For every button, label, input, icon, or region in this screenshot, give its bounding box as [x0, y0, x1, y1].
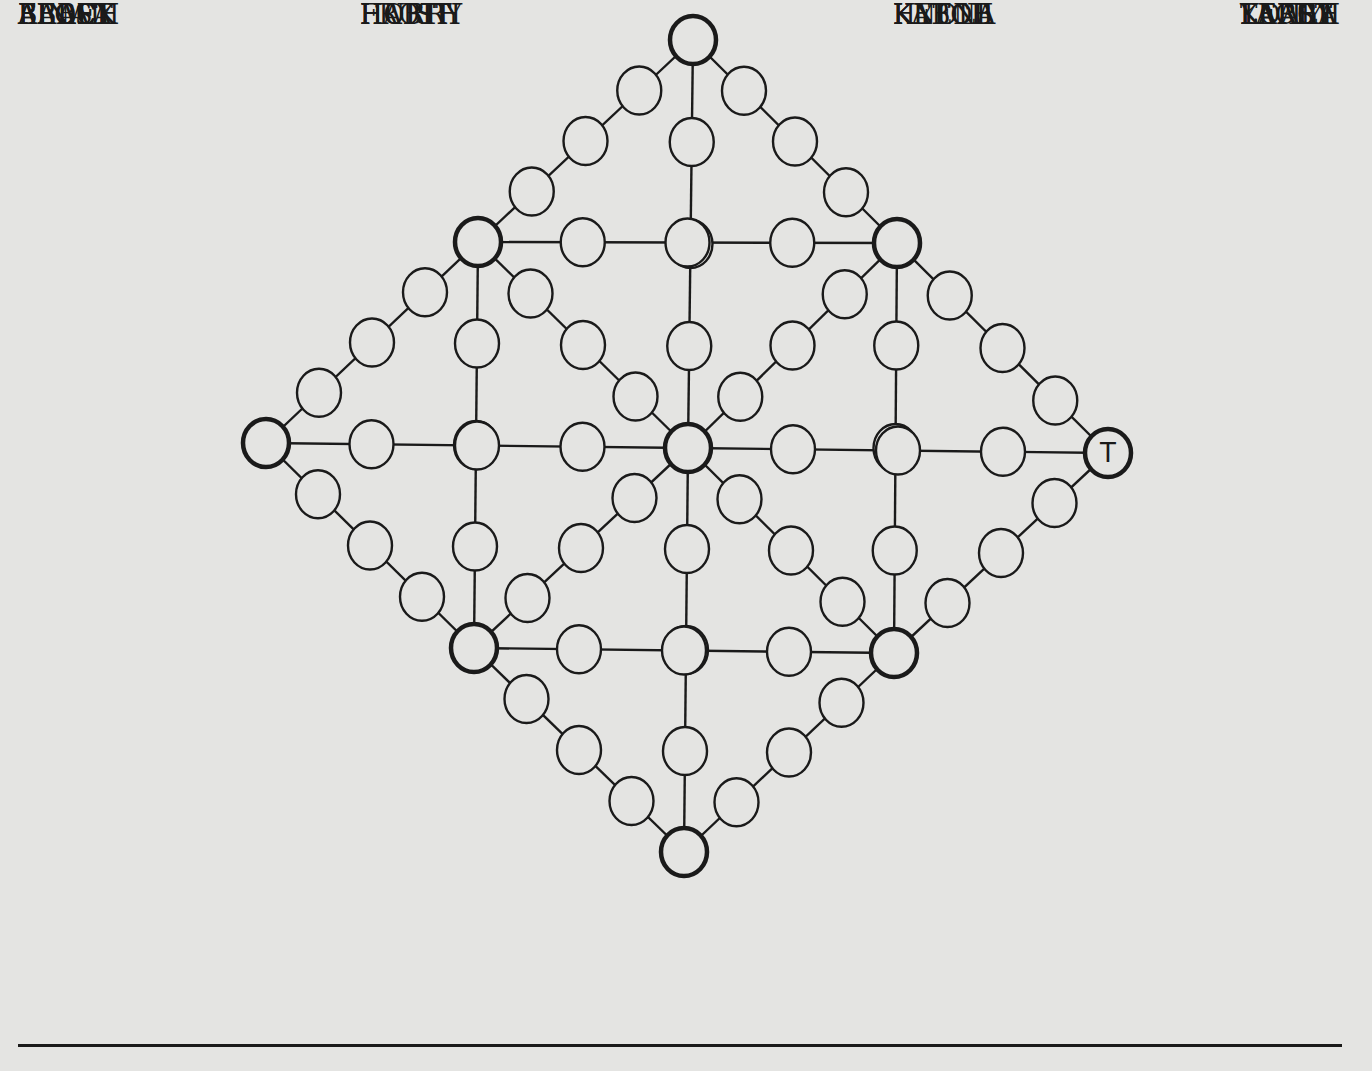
letter-cell[interactable]	[559, 524, 603, 572]
hub-letter-cell-t[interactable]	[670, 16, 716, 64]
given-letter: T	[1099, 438, 1116, 468]
letter-cell[interactable]	[453, 523, 497, 571]
letter-cell[interactable]	[455, 320, 499, 368]
letter-cell[interactable]	[1033, 377, 1077, 425]
letter-cell[interactable]	[926, 579, 970, 627]
letter-cell[interactable]	[770, 219, 814, 267]
letter-cell[interactable]	[350, 319, 394, 367]
letter-cell[interactable]	[610, 777, 654, 825]
letter-cell[interactable]	[773, 118, 817, 166]
letter-cell[interactable]	[297, 369, 341, 417]
letter-cell[interactable]	[767, 628, 811, 676]
letter-cell[interactable]	[670, 118, 714, 166]
hub-letter-cell-ur[interactable]	[874, 219, 920, 267]
hub-letter-cell-c[interactable]	[665, 424, 711, 472]
letter-cell[interactable]	[718, 373, 762, 421]
letter-cell[interactable]	[510, 168, 554, 216]
letter-cell[interactable]	[506, 574, 550, 622]
letter-cell[interactable]	[820, 679, 864, 727]
puzzle-board: T	[0, 0, 1372, 1071]
letter-cell[interactable]	[505, 675, 549, 723]
letter-cell[interactable]	[613, 474, 657, 522]
letter-cell[interactable]	[771, 425, 815, 473]
hub-letter-cell-lr[interactable]	[871, 629, 917, 677]
letter-cell[interactable]	[769, 527, 813, 575]
word-list-item: FLOCK	[18, 0, 116, 31]
letter-cell[interactable]	[665, 525, 709, 573]
letter-cell[interactable]	[455, 422, 499, 470]
letter-cell[interactable]	[400, 573, 444, 621]
letter-cell[interactable]	[722, 67, 766, 115]
letter-cell[interactable]	[771, 322, 815, 370]
letter-cell[interactable]	[666, 219, 710, 267]
letter-cell[interactable]	[617, 67, 661, 115]
letter-cell[interactable]	[663, 727, 707, 775]
letter-cell[interactable]	[874, 322, 918, 370]
letter-cell[interactable]	[564, 117, 608, 165]
letter-cell[interactable]	[350, 420, 394, 468]
bottom-divider	[18, 1044, 1342, 1047]
letter-cell[interactable]	[296, 470, 340, 518]
letter-cell[interactable]	[821, 578, 865, 626]
letter-cell[interactable]	[823, 270, 867, 318]
letter-cell[interactable]	[509, 270, 553, 318]
letter-cell[interactable]	[715, 778, 759, 826]
letter-cell[interactable]	[403, 268, 447, 316]
letter-cell[interactable]	[824, 168, 868, 216]
letter-cell[interactable]	[981, 324, 1025, 372]
word-list-item: HURRY	[360, 0, 463, 31]
hub-letter-cell-b[interactable]	[661, 828, 707, 876]
hub-letter-cell-l[interactable]	[243, 419, 289, 467]
letter-cell[interactable]	[718, 475, 762, 523]
letter-cell[interactable]	[561, 321, 605, 369]
letter-cell[interactable]	[873, 527, 917, 575]
letter-cell[interactable]	[981, 428, 1025, 476]
letter-cell[interactable]	[614, 373, 658, 421]
letter-cells: T	[243, 16, 1131, 876]
letter-cell[interactable]	[928, 272, 972, 320]
letter-cell[interactable]	[767, 729, 811, 777]
word-list-item: YACHT	[1240, 0, 1336, 31]
letter-cell[interactable]	[662, 627, 706, 675]
letter-cell[interactable]	[979, 529, 1023, 577]
letter-cell[interactable]	[561, 423, 605, 471]
hub-letter-cell-ll[interactable]	[451, 624, 497, 672]
letter-cell[interactable]	[667, 322, 711, 370]
letter-cell[interactable]	[876, 427, 920, 475]
hub-letter-cell-ul[interactable]	[455, 218, 501, 266]
letter-cell[interactable]	[557, 726, 601, 774]
word-list-item: KNOLL	[893, 0, 994, 31]
letter-cell[interactable]	[557, 625, 601, 673]
letter-cell[interactable]	[348, 522, 392, 570]
letter-cell[interactable]	[561, 218, 605, 266]
letter-cell[interactable]	[1033, 479, 1077, 527]
